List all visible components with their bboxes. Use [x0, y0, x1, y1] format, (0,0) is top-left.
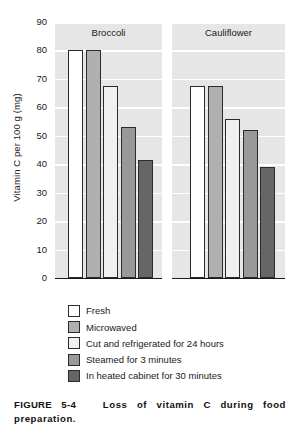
legend-item: Fresh — [68, 303, 283, 319]
bar — [208, 86, 223, 278]
bar — [121, 127, 136, 278]
bars-cauliflower — [172, 22, 285, 278]
bar — [103, 86, 118, 278]
y-tick-label: 70 — [36, 74, 47, 84]
plot-area: Broccoli Cauliflower — [55, 22, 285, 278]
legend-item: Microwaved — [68, 319, 283, 335]
caption-label: FIGURE 5-4 — [14, 399, 76, 410]
legend-label: Fresh — [86, 306, 110, 316]
legend-swatch — [68, 305, 80, 317]
legend-item: Cut and refrigerated for 24 hours — [68, 335, 283, 351]
bar — [138, 160, 153, 278]
bar — [243, 130, 258, 278]
bar — [260, 167, 275, 278]
legend-label: Microwaved — [86, 323, 137, 333]
figure-container: Vitamin C per 100 g (mg) 010203040506070… — [0, 0, 299, 447]
legend-item: In heated cabinet for 30 minutes — [68, 368, 283, 384]
y-tick-label: 40 — [36, 159, 47, 169]
legend-swatch — [68, 337, 80, 349]
legend-item: Steamed for 3 minutes — [68, 352, 283, 368]
panel-broccoli: Broccoli — [55, 22, 162, 278]
legend-label: Steamed for 3 minutes — [86, 355, 182, 365]
y-tick-label: 80 — [36, 46, 47, 56]
y-tick-label: 90 — [36, 17, 47, 27]
bar — [68, 50, 83, 278]
panel-title-broccoli: Broccoli — [55, 27, 162, 38]
y-axis-tick-labels: 0102030405060708090 — [0, 0, 53, 447]
y-tick-label: 0 — [42, 273, 47, 283]
y-tick-label: 60 — [36, 103, 47, 113]
y-tick-label: 20 — [36, 216, 47, 226]
legend-label: In heated cabinet for 30 minutes — [86, 371, 222, 381]
panel-cauliflower: Cauliflower — [172, 22, 285, 278]
bar — [86, 50, 101, 278]
y-tick-label: 30 — [36, 188, 47, 198]
bars-broccoli — [55, 22, 162, 278]
legend-swatch — [68, 370, 80, 382]
bar — [225, 119, 240, 278]
y-tick-label: 50 — [36, 131, 47, 141]
bar — [190, 86, 205, 278]
legend-swatch — [68, 321, 80, 333]
panel-title-cauliflower: Cauliflower — [172, 27, 285, 38]
x-axis-gap — [162, 277, 172, 281]
chart-legend: FreshMicrowavedCut and refrigerated for … — [68, 303, 283, 384]
y-tick-label: 10 — [36, 245, 47, 255]
legend-swatch — [68, 354, 80, 366]
figure-caption: FIGURE 5-4 Loss of vitamin C during food… — [14, 398, 286, 425]
legend-label: Cut and refrigerated for 24 hours — [86, 339, 224, 349]
